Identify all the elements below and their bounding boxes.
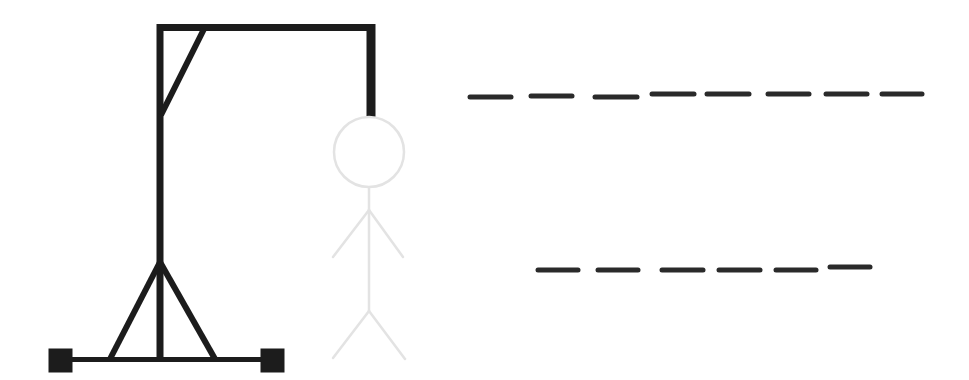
word-row-2 <box>538 267 870 270</box>
figure-right-leg <box>369 311 405 359</box>
hangman-canvas <box>0 0 969 380</box>
gallows-right-leg <box>160 262 215 359</box>
figure-head <box>334 117 404 187</box>
gallows-left-foot <box>49 349 72 372</box>
figure-left-arm <box>333 210 369 257</box>
gallows-right-foot <box>261 349 284 372</box>
gallows-brace <box>161 29 204 115</box>
hangman-figure <box>333 117 405 359</box>
gallows <box>49 24 375 372</box>
gallows-left-leg <box>110 262 160 359</box>
hangman-board <box>0 0 969 380</box>
figure-left-leg <box>333 311 369 358</box>
figure-right-arm <box>369 210 403 257</box>
word-row-1 <box>470 94 922 97</box>
